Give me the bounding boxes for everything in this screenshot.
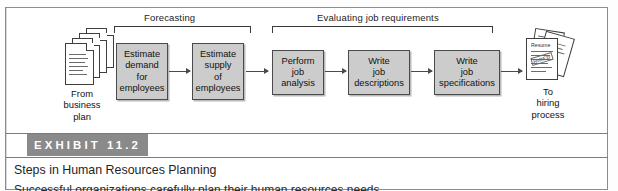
step-line: demand bbox=[120, 60, 165, 71]
start-caption-line-2: business bbox=[54, 99, 110, 110]
exhibit-badge: EXHIBIT 11.2 bbox=[27, 134, 148, 156]
group-label-evaluating: Evaluating job requirements bbox=[317, 12, 439, 23]
step-line: for bbox=[120, 72, 165, 83]
step-line: supply bbox=[196, 60, 241, 71]
step-box-perform-job-analysis[interactable]: Perform job analysis bbox=[272, 50, 324, 95]
step-line: job bbox=[439, 67, 495, 78]
resume-stack-icon: Resume HIRED bbox=[518, 30, 576, 82]
step-line: analysis bbox=[281, 78, 315, 89]
end-caption-line-3: process bbox=[520, 109, 576, 120]
arrow-2 bbox=[246, 71, 268, 72]
step-line: job bbox=[354, 67, 404, 78]
step-line: Perform bbox=[281, 56, 315, 67]
arrow-4 bbox=[411, 71, 432, 72]
exhibit-badge-label: EXHIBIT 11.2 bbox=[34, 139, 141, 151]
step-box-write-job-specifications[interactable]: Write job specifications bbox=[434, 50, 500, 95]
step-line: employees bbox=[120, 83, 165, 94]
step-box-write-job-descriptions[interactable]: Write job descriptions bbox=[348, 50, 410, 95]
step-line: employees bbox=[196, 83, 241, 94]
start-caption-line-1: From bbox=[54, 88, 110, 99]
exhibit-figure: Forecasting Evaluating job requirements bbox=[0, 0, 618, 191]
step-line: specifications bbox=[439, 78, 495, 89]
step-line: Write bbox=[439, 56, 495, 67]
step-line: descriptions bbox=[354, 78, 404, 89]
process-diagram: Forecasting Evaluating job requirements bbox=[6, 8, 608, 133]
divider-bottom bbox=[6, 157, 608, 158]
end-caption: To hiring process bbox=[520, 86, 576, 120]
arrow-3 bbox=[325, 71, 346, 72]
group-label-forecasting: Forecasting bbox=[144, 12, 195, 23]
resume-title: Resume bbox=[531, 42, 550, 48]
arrow-1 bbox=[169, 71, 190, 72]
figure-caption: Steps in Human Resources Planning bbox=[14, 163, 217, 177]
step-line: Estimate bbox=[196, 49, 241, 60]
step-line: Write bbox=[354, 56, 404, 67]
figure-subcaption: Successful organizations carefully plan … bbox=[14, 183, 574, 191]
step-line: Estimate bbox=[120, 49, 165, 60]
step-line: job bbox=[281, 67, 315, 78]
step-line: of bbox=[196, 72, 241, 83]
end-caption-line-2: hiring bbox=[520, 97, 576, 108]
start-caption-line-3: plan bbox=[54, 111, 110, 122]
bracket-evaluating bbox=[272, 26, 493, 33]
start-caption: From business plan bbox=[54, 88, 110, 122]
step-box-estimate-supply[interactable]: Estimate supply of employees bbox=[192, 43, 244, 100]
end-caption-line-1: To bbox=[520, 86, 576, 97]
document-stack-icon bbox=[64, 28, 114, 86]
step-box-estimate-demand[interactable]: Estimate demand for employees bbox=[116, 43, 168, 100]
bracket-forecasting bbox=[114, 26, 251, 33]
